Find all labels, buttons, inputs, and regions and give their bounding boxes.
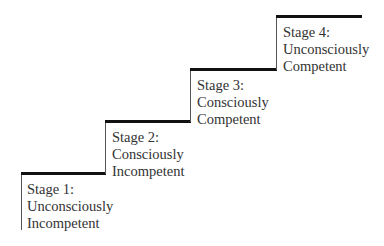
step-1-riser (21, 174, 22, 230)
stage-2-line2: Incompetent (112, 163, 184, 180)
stage-1-line2: Incompetent (27, 215, 113, 232)
stage-1-title: Stage 1: (27, 181, 113, 198)
stage-4-line1: Unconsciously (283, 41, 369, 58)
stage-2-line1: Consciously (112, 146, 184, 163)
stage-3-line1: Consciously (197, 94, 269, 111)
stage-1-label: Stage 1: Unconsciously Incompetent (27, 181, 113, 232)
stage-2-title: Stage 2: (112, 129, 184, 146)
stage-3-line2: Competent (197, 111, 269, 128)
step-2-riser (105, 121, 106, 174)
stage-3-label: Stage 3: Consciously Competent (197, 77, 269, 128)
stage-4-title: Stage 4: (283, 24, 369, 41)
step-1-tread (21, 172, 106, 175)
step-3-tread (190, 68, 277, 71)
step-4-tread (276, 15, 362, 18)
stage-2-label: Stage 2: Consciously Incompetent (112, 129, 184, 180)
step-4-riser (276, 16, 277, 70)
step-2-tread (105, 120, 191, 123)
stage-4-label: Stage 4: Unconsciously Competent (283, 24, 369, 75)
stage-1-line1: Unconsciously (27, 198, 113, 215)
stage-3-title: Stage 3: (197, 77, 269, 94)
stage-4-line2: Competent (283, 58, 369, 75)
step-3-riser (190, 69, 191, 122)
